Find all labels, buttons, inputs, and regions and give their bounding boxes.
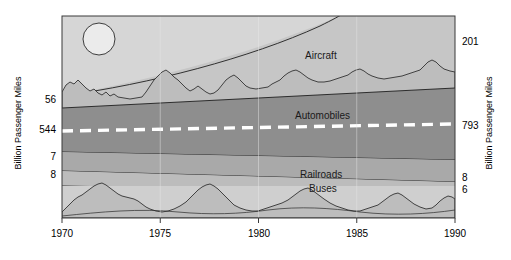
y-tick-left-buses: 8 <box>16 169 56 180</box>
y-tick-right-railroads: 8 <box>462 172 502 183</box>
y-tick-right-aircraft: 201 <box>462 36 502 47</box>
x-tick-1990: 1990 <box>432 228 478 239</box>
sun-circle <box>83 23 115 55</box>
x-tick-1970: 1970 <box>39 228 85 239</box>
chart-figure: Billion Passenger Miles Billion Passenge… <box>0 0 511 260</box>
area-chart-plot <box>0 0 511 260</box>
y-tick-left-automobiles: 544 <box>16 124 56 135</box>
series-label-buses: Buses <box>309 183 337 194</box>
plot-bands-group <box>62 11 455 218</box>
x-axis-ticks <box>62 218 455 223</box>
series-label-railroads: Railroads <box>300 169 342 180</box>
y-tick-left-aircraft: 56 <box>16 94 56 105</box>
x-tick-1975: 1975 <box>137 228 183 239</box>
y-tick-left-railroads: 7 <box>16 151 56 162</box>
y-tick-right-buses: 6 <box>462 184 502 195</box>
series-label-aircraft: Aircraft <box>305 50 337 61</box>
x-tick-1980: 1980 <box>236 228 282 239</box>
x-tick-1985: 1985 <box>334 228 380 239</box>
y-tick-right-automobiles: 793 <box>462 120 502 131</box>
series-label-automobiles: Automobiles <box>295 110 350 121</box>
